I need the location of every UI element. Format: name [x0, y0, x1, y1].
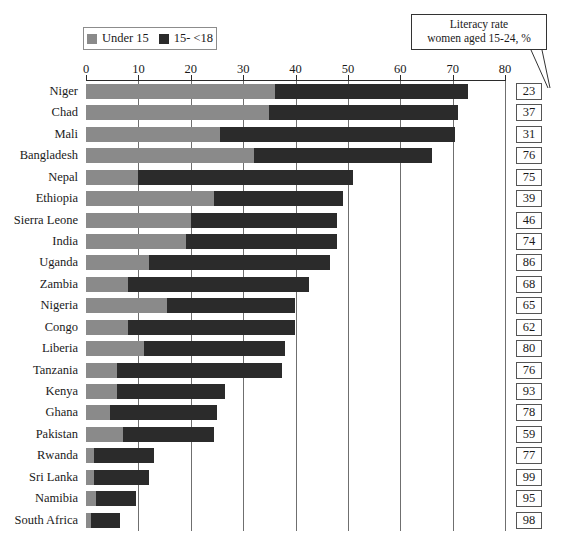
bar-segment-15to18 — [220, 127, 456, 142]
country-label: India — [0, 231, 82, 253]
bar-row — [86, 295, 505, 317]
bar-row — [86, 488, 505, 510]
literacy-rate-box: 75 — [516, 169, 542, 186]
bar-segment-under15 — [86, 105, 269, 120]
bar-segment-under15 — [86, 363, 117, 378]
y-axis-category-labels: NigerChadMaliBangladeshNepalEthiopiaSier… — [0, 81, 82, 531]
literacy-rate-box: 31 — [516, 126, 542, 143]
bar-segment-under15 — [86, 84, 275, 99]
bar-segment-under15 — [86, 277, 128, 292]
x-axis-tick-mark — [243, 75, 244, 81]
bar-row — [86, 252, 505, 274]
legend-swatch-under15-icon — [87, 34, 97, 44]
literacy-rate-box: 99 — [516, 469, 542, 486]
bar-row — [86, 424, 505, 446]
bar-segment-15to18 — [167, 298, 295, 313]
literacy-rate-column: 2337317675394674866865628076937859779995… — [516, 81, 550, 531]
bar-segment-under15 — [86, 170, 138, 185]
legend-item-under15: Under 15 — [87, 32, 149, 45]
country-label: Sierra Leone — [0, 210, 82, 232]
literacy-rate-box: 98 — [516, 512, 542, 529]
bar-segment-15to18 — [117, 384, 224, 399]
gridline — [505, 81, 506, 531]
literacy-rate-box: 80 — [516, 340, 542, 357]
bar-segment-under15 — [86, 320, 128, 335]
annotation-line-2: women aged 15-24, % — [427, 32, 530, 46]
x-axis-tick-mark — [191, 75, 192, 81]
country-label: Nigeria — [0, 295, 82, 317]
chart-legend: Under 15 15- <18 — [83, 27, 217, 50]
literacy-rate-box: 77 — [516, 447, 542, 464]
literacy-rate-box: 78 — [516, 404, 542, 421]
bar-segment-under15 — [86, 255, 149, 270]
bar-row — [86, 145, 505, 167]
bar-row — [86, 381, 505, 403]
country-label: Ghana — [0, 402, 82, 424]
bar-row — [86, 402, 505, 424]
x-axis-tick-mark — [400, 75, 401, 81]
bar-segment-under15 — [86, 298, 167, 313]
bar-segment-15to18 — [96, 491, 135, 506]
country-label: Zambia — [0, 274, 82, 296]
x-axis-tick-mark — [86, 75, 87, 81]
bar-segment-15to18 — [254, 148, 432, 163]
country-label: Liberia — [0, 338, 82, 360]
bar-segment-15to18 — [214, 191, 342, 206]
bar-row — [86, 510, 505, 532]
country-label: Uganda — [0, 252, 82, 274]
annotation-callout: Literacy rate women aged 15-24, % — [411, 14, 547, 50]
literacy-rate-box: 68 — [516, 276, 542, 293]
country-label: Sri Lanka — [0, 467, 82, 489]
literacy-rate-box: 95 — [516, 490, 542, 507]
bar-segment-under15 — [86, 234, 186, 249]
x-axis-tick-labels: 01020304050607080 — [0, 62, 561, 78]
country-label: Kenya — [0, 381, 82, 403]
country-label: Congo — [0, 317, 82, 339]
legend-swatch-15to18-icon — [159, 34, 169, 44]
plot-area — [86, 81, 505, 531]
country-label: Nepal — [0, 167, 82, 189]
bar-segment-under15 — [86, 405, 110, 420]
bar-segment-15to18 — [144, 341, 285, 356]
country-label: Niger — [0, 81, 82, 103]
bar-segment-15to18 — [138, 170, 353, 185]
bar-row — [86, 467, 505, 489]
bar-segment-under15 — [86, 213, 191, 228]
literacy-rate-box: 37 — [516, 104, 542, 121]
bar-segment-15to18 — [117, 363, 282, 378]
bar-row — [86, 102, 505, 124]
bar-segment-15to18 — [94, 448, 154, 463]
country-label: Tanzania — [0, 360, 82, 382]
bar-row — [86, 445, 505, 467]
bar-row — [86, 124, 505, 146]
bar-row — [86, 167, 505, 189]
bar-row — [86, 210, 505, 232]
bar-row — [86, 188, 505, 210]
bar-row — [86, 317, 505, 339]
bar-segment-15to18 — [91, 513, 120, 528]
country-label: Ethiopia — [0, 188, 82, 210]
bar-row — [86, 81, 505, 103]
legend-label-under15: Under 15 — [102, 32, 149, 45]
bar-segment-15to18 — [110, 405, 217, 420]
x-axis-tick-mark — [348, 75, 349, 81]
literacy-rate-box: 39 — [516, 190, 542, 207]
bar-segment-under15 — [86, 127, 220, 142]
x-axis-tick-mark — [296, 75, 297, 81]
bar-row — [86, 274, 505, 296]
literacy-rate-box: 74 — [516, 233, 542, 250]
annotation-line-1: Literacy rate — [450, 18, 508, 32]
bar-segment-under15 — [86, 491, 96, 506]
bar-segment-under15 — [86, 448, 94, 463]
literacy-rate-box: 76 — [516, 147, 542, 164]
literacy-rate-box: 46 — [516, 212, 542, 229]
literacy-rate-box: 65 — [516, 297, 542, 314]
bar-segment-15to18 — [123, 427, 215, 442]
country-label: South Africa — [0, 510, 82, 532]
x-axis-tick-mark — [138, 75, 139, 81]
bar-segment-15to18 — [149, 255, 330, 270]
bar-row — [86, 231, 505, 253]
bar-segment-15to18 — [128, 320, 296, 335]
literacy-rate-box: 23 — [516, 83, 542, 100]
bar-segment-under15 — [86, 470, 94, 485]
